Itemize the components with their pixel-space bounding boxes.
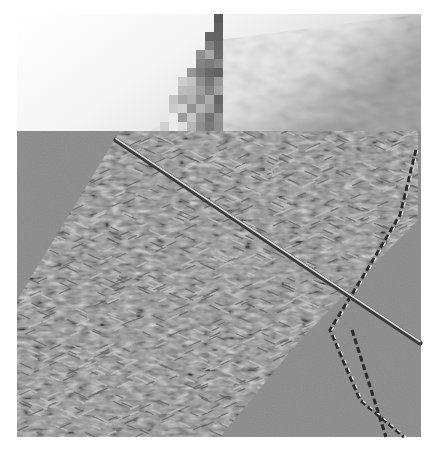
filtered-fabric-image: [0, 0, 439, 452]
image-canvas: [0, 0, 439, 452]
